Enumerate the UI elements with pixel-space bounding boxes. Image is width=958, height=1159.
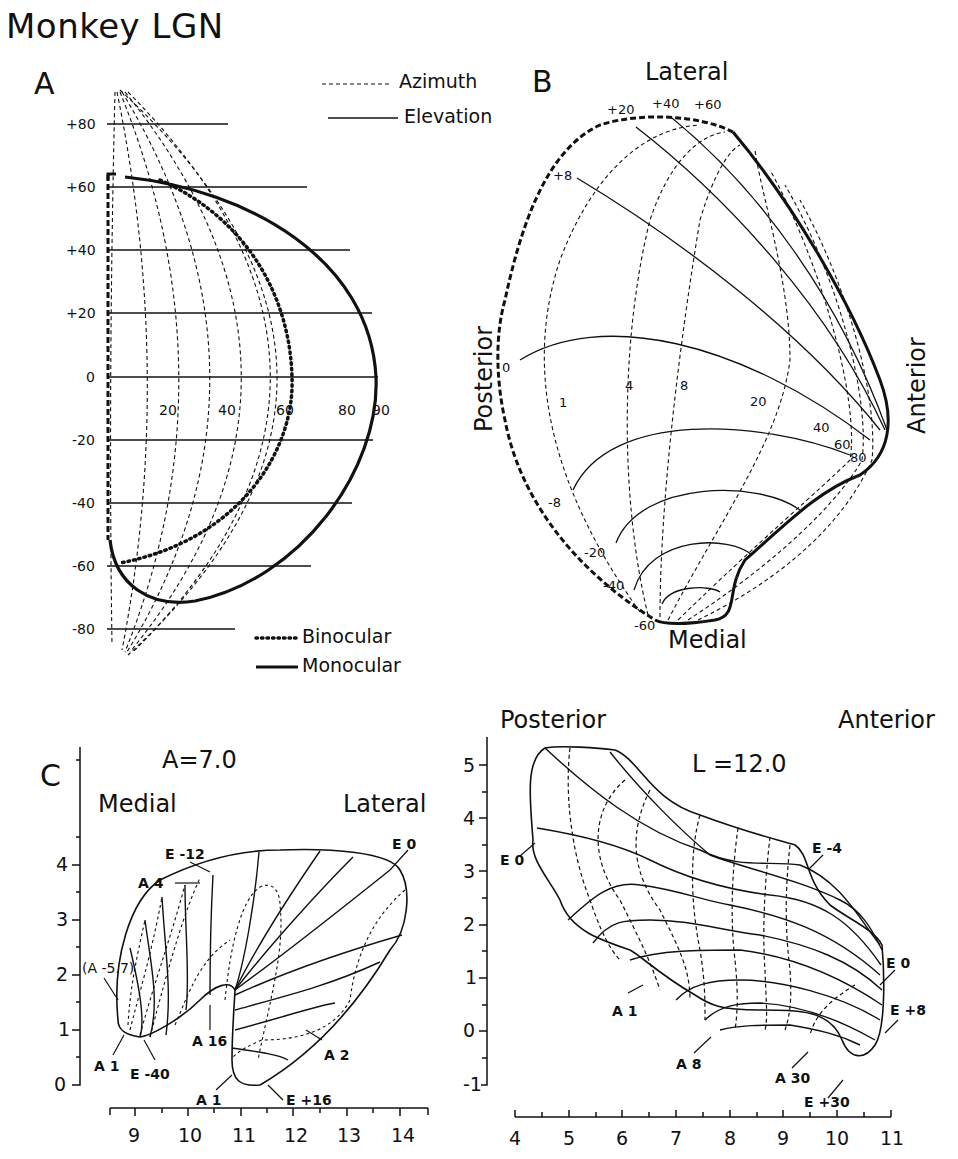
c-left-y-tick: 4: [56, 853, 68, 875]
c-right-x-ticks: [515, 1110, 891, 1117]
c-left-elevation-lines: [130, 851, 402, 1060]
panel-a-label: A: [34, 66, 55, 101]
c-left-x-tick: 9: [128, 1124, 140, 1146]
c-right-annotation: E 0: [886, 955, 910, 971]
b-posterior-boundary: [498, 117, 733, 620]
c-left-x-tick: 11: [232, 1124, 256, 1146]
c-left-medial-label: Medial: [98, 790, 177, 818]
b-azimuth-label: 20: [750, 394, 767, 409]
binocular-legend-label: Binocular: [302, 625, 391, 647]
c-right-anterior-label: Anterior: [838, 706, 935, 734]
b-azimuth-label: 4: [625, 378, 633, 393]
b-azimuth-label: 1: [559, 395, 567, 410]
azimuth-tick: 80: [338, 402, 356, 418]
b-elevation-label: +20: [607, 102, 634, 117]
c-left-x-tick: 12: [284, 1124, 308, 1146]
elevation-tick: -60: [72, 558, 95, 574]
c-right-section-label: L =12.0: [692, 750, 787, 778]
c-right-annotation: A 1: [612, 1003, 637, 1019]
annotation-leaders: [104, 843, 898, 1100]
elevation-tick: +20: [66, 305, 96, 321]
c-right-annotation: E +30: [804, 1094, 850, 1110]
c-left-annotation: A 2: [324, 1047, 349, 1063]
azimuth-lines: [111, 90, 277, 655]
elevation-tick: +40: [66, 242, 96, 258]
c-left-y-tick: 2: [56, 963, 68, 985]
azimuth-legend-label: Azimuth: [399, 70, 477, 92]
c-right-posterior-label: Posterior: [500, 706, 606, 734]
c-right-y-tick: 5: [463, 754, 475, 776]
b-elevation-label: +60: [694, 97, 721, 112]
c-left-lateral-label: Lateral: [343, 790, 427, 818]
b-elevation-label: 0: [502, 360, 510, 375]
c-left-annotation: E -12: [165, 846, 205, 862]
c-left-x-tick: 13: [337, 1124, 361, 1146]
c-right-y-ticks: [479, 765, 487, 1058]
elevation-lines: [107, 124, 378, 629]
elevation-tick: 0: [86, 369, 95, 385]
c-left-y-axis: [72, 747, 80, 1085]
azimuth-tick: 90: [372, 402, 390, 418]
figure-line-art: [0, 0, 958, 1159]
b-azimuth-label: 80: [850, 450, 867, 465]
panel-b-drawing: [498, 117, 888, 623]
c-left-y-tick: 1: [58, 1018, 70, 1040]
anterior-label: Anterior: [903, 337, 931, 434]
c-right-x-tick: 8: [724, 1127, 736, 1149]
b-azimuth-label: 8: [680, 378, 688, 393]
c-right-x-tick: 10: [825, 1127, 849, 1149]
panel-a-drawing: [107, 84, 398, 667]
c-right-x-tick: 6: [616, 1127, 628, 1149]
medial-label: Medial: [668, 626, 747, 654]
b-elevation-lines: [520, 118, 887, 604]
c-left-y-tick: 3: [56, 908, 68, 930]
boundary-corner: [108, 174, 116, 180]
c-right-y-tick: 2: [463, 913, 475, 935]
lateral-label: Lateral: [645, 58, 729, 86]
elevation-tick: +60: [66, 179, 96, 195]
b-elevation-label: -60: [634, 618, 655, 633]
c-right-azimuth-lines: [568, 748, 855, 1035]
c-right-annotation: E -4: [812, 840, 842, 856]
posterior-label: Posterior: [470, 326, 498, 432]
c-left-annotation: A 1: [94, 1058, 119, 1074]
c-right-x-tick: 9: [777, 1127, 789, 1149]
c-left-x-ticks: [110, 1108, 428, 1116]
c-left-annotation: A 4: [138, 875, 163, 891]
c-left-annotation: E -40: [130, 1066, 170, 1082]
c-left-y-ticks: [72, 760, 80, 1057]
c-right-annotation: A 8: [676, 1056, 701, 1072]
c-right-y-tick: 0: [463, 1019, 475, 1041]
azimuth-tick: 20: [159, 402, 177, 418]
elevation-tick: -20: [72, 432, 95, 448]
c-right-y-axis: [481, 737, 487, 1085]
c-left-annotation: A 16: [192, 1033, 227, 1049]
elevation-tick: -80: [72, 621, 95, 637]
panel-b-label: B: [532, 64, 553, 99]
c-left-y-tick: 0: [54, 1073, 66, 1095]
c-left-annotation: E +16: [286, 1092, 332, 1108]
c-left-x-tick: 14: [391, 1124, 415, 1146]
b-azimuth-label: 40: [813, 420, 830, 435]
c-right-x-tick: 7: [670, 1127, 682, 1149]
elevation-tick: +80: [66, 116, 96, 132]
panel-c-label: C: [40, 758, 61, 793]
c-right-y-tick: -1: [463, 1073, 482, 1095]
b-elevation-label: -20: [584, 545, 605, 560]
elevation-legend-label: Elevation: [404, 105, 492, 127]
b-azimuth-label: 60: [834, 437, 851, 452]
azimuth-tick: 60: [276, 402, 294, 418]
azimuth-tick: 40: [218, 402, 236, 418]
c-right-annotation: A 30: [775, 1070, 810, 1086]
figure-title: Monkey LGN: [6, 6, 224, 46]
c-right-annotation: E 0: [500, 852, 524, 868]
c-left-x-tick: 10: [178, 1124, 202, 1146]
c-left-annotation: (A -5.7): [82, 960, 134, 976]
b-elevation-label: +8: [553, 168, 572, 183]
c-right-y-tick: 3: [463, 860, 475, 882]
c-right-y-tick: 1: [465, 966, 477, 988]
c-left-annotation: E 0: [392, 836, 416, 852]
c-right-outline: [530, 747, 884, 1056]
b-elevation-label: -8: [548, 495, 561, 510]
elevation-tick: -40: [72, 495, 95, 511]
